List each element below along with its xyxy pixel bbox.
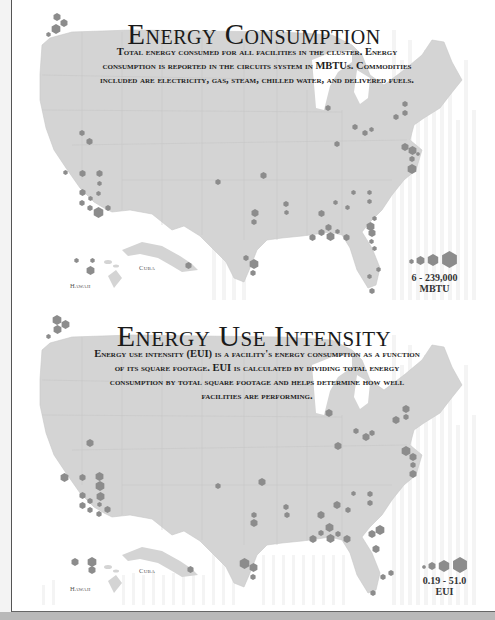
legend-range: 0.19 - 51.0 (417, 575, 472, 586)
label-hawaii: Hawaii (70, 585, 91, 592)
size-legend: 6 - 239,000 MBTU (407, 272, 462, 294)
panel-description: Total energy consumed for all facilities… (92, 45, 422, 87)
label-cuba: Cuba (139, 264, 155, 271)
label-cuba: Cuba (139, 567, 155, 574)
page-margin (0, 0, 11, 620)
label-hawaii: Hawaii (70, 282, 91, 289)
legend-range: 6 - 239,000 (407, 272, 462, 283)
energy-consumption-panel: Energy Consumption Total energy consumed… (12, 0, 495, 300)
infographic-page: Energy Consumption Total energy consumed… (11, 0, 495, 612)
page-shadow (0, 612, 495, 620)
size-legend: 0.19 - 51.0 EUI (417, 575, 472, 597)
panel-description: Energy use intensity (EUI) is a facility… (92, 347, 422, 403)
energy-use-intensity-panel: Energy Use Intensity Energy use intensit… (12, 305, 495, 605)
legend-unit: MBTU (407, 283, 462, 294)
legend-unit: EUI (417, 586, 472, 597)
